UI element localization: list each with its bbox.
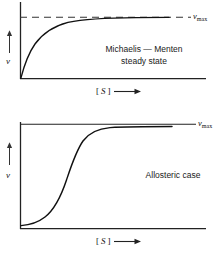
y-axis-label-top: v [6,56,10,66]
caption-line-1-top: Michaelis — Menten [88,44,200,56]
caption-michaelis-menten: Michaelis — Menten steady state [88,44,200,67]
y-axis-arrow-top [7,30,12,53]
bracket-close-bottom: ] [108,236,111,246]
x-axis-label-bottom: [S] [96,236,143,246]
substrate-symbol-top: S [101,86,106,96]
caption-line-1-bottom: Allosteric case [128,170,218,182]
vmax-label-bottom: vmax [198,118,212,128]
figure-enzyme-kinetics: v vmax Michaelis — Menten steady state [… [0,0,221,253]
y-axis-arrow-bottom [7,142,12,165]
caption-line-2-top: steady state [88,56,200,68]
x-axis-arrow-top [113,87,143,96]
substrate-symbol-bottom: S [101,236,106,246]
x-axis-arrow-bottom [113,237,143,246]
plot-allosteric [0,118,221,253]
panel-michaelis-menten: v vmax Michaelis — Menten steady state [… [0,0,221,127]
vmax-sub-top: max [197,16,208,22]
bracket-close-top: ] [108,86,111,96]
bracket-open-top: [ [96,86,99,96]
panel-allosteric: v vmax Allosteric case [S] [0,118,221,253]
vmax-label-top: vmax [193,11,207,21]
y-axis-label-bottom: v [6,170,10,180]
caption-allosteric: Allosteric case [128,170,218,182]
x-axis-label-top: [S] [96,86,143,96]
vmax-sub-bottom: max [202,123,213,129]
bracket-open-bottom: [ [96,236,99,246]
